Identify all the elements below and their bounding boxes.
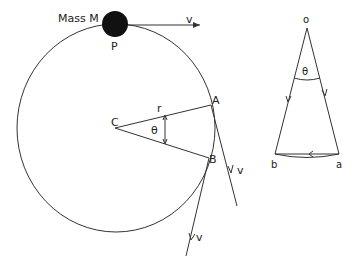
point-p-label: P bbox=[111, 40, 118, 53]
radius-ca bbox=[115, 105, 211, 128]
radius-cb bbox=[115, 128, 209, 158]
angle-arc bbox=[294, 78, 320, 80]
point-b-small-label: b bbox=[271, 159, 277, 170]
point-b-label: B bbox=[209, 153, 217, 166]
origin-o-label: o bbox=[303, 14, 309, 25]
point-a-label: A bbox=[212, 94, 220, 107]
mass-label: Mass M bbox=[58, 12, 99, 25]
left-figure: Mass M P v C r θ A B v v bbox=[17, 11, 244, 256]
velocity-triangle: o θ b a bbox=[271, 14, 342, 170]
vector-ob bbox=[275, 28, 307, 154]
angle-theta-label: θ bbox=[151, 124, 158, 137]
radius-r-label: r bbox=[157, 102, 162, 115]
arc-ab bbox=[275, 154, 339, 158]
velocity-top-label: v bbox=[186, 13, 193, 26]
velocity-a-label: v bbox=[237, 164, 244, 177]
triangle-theta-label: θ bbox=[302, 66, 308, 77]
center-c-label: C bbox=[111, 116, 119, 129]
velocity-b-label: v bbox=[196, 231, 203, 244]
point-a-small-label: a bbox=[336, 159, 342, 170]
circular-motion-diagram: Mass M P v C r θ A B v v o θ b bbox=[0, 0, 355, 267]
mass-ball bbox=[102, 11, 128, 37]
